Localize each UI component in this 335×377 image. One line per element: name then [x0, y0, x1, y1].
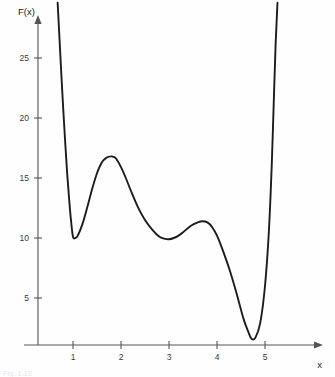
y-axis-arrowhead [34, 15, 41, 24]
x-axis-tick-labels: 1 2 3 4 5 [71, 352, 268, 362]
x-tick-label-3: 3 [167, 352, 172, 362]
y-tick-label-15: 15 [20, 173, 30, 183]
figure-caption: Fig. 1.12 [3, 370, 32, 377]
line-chart: 5 10 15 20 25 1 2 3 4 5 F(x) x [0, 0, 335, 377]
x-tick-label-2: 2 [119, 352, 124, 362]
y-axis [34, 15, 41, 345]
x-tick-label-5: 5 [263, 352, 268, 362]
x-axis-title: x [317, 359, 322, 370]
y-axis-tick-labels: 5 10 15 20 25 [20, 53, 30, 303]
function-curve [58, 3, 278, 340]
y-tick-label-5: 5 [24, 293, 29, 303]
y-tick-label-10: 10 [20, 233, 30, 243]
x-axis-arrowhead [314, 341, 323, 348]
figure-container: 5 10 15 20 25 1 2 3 4 5 F(x) x Fig. 1.12 [0, 0, 335, 377]
x-tick-label-4: 4 [215, 352, 220, 362]
y-tick-label-25: 25 [20, 53, 30, 63]
y-tick-label-20: 20 [20, 113, 30, 123]
x-tick-label-1: 1 [71, 352, 76, 362]
y-axis-title: F(x) [18, 6, 35, 17]
x-axis [24, 341, 323, 348]
